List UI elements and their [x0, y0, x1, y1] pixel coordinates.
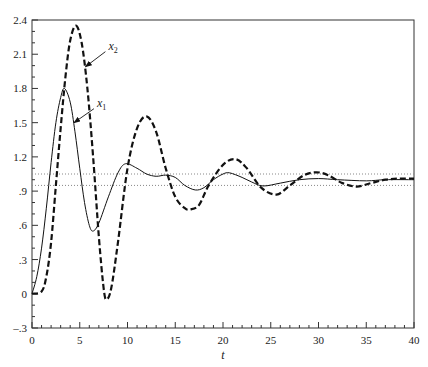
x-tick-label: 5 — [77, 334, 83, 346]
y-tick-label: 2.4 — [13, 14, 27, 26]
series-x2-line — [32, 26, 414, 300]
y-tick-label: 0 — [22, 288, 28, 300]
x-axis-ticks: 0510152025303540 — [29, 322, 420, 346]
series-group — [32, 26, 414, 300]
y-tick-label: 2.1 — [13, 48, 27, 60]
y-tick-label: .3 — [19, 254, 28, 266]
annotation-arrow-x2 — [85, 52, 105, 67]
y-tick-label: 1.2 — [13, 151, 27, 163]
annotations: x2x1 — [74, 39, 118, 123]
x-tick-label: 35 — [361, 334, 373, 346]
x-tick-label: 20 — [218, 334, 230, 346]
y-tick-label: –.3 — [12, 322, 27, 334]
x-tick-label: 40 — [409, 334, 421, 346]
line-chart: 0510152025303540 –.30.3.6.91.21.51.82.12… — [0, 0, 428, 367]
y-tick-label: .6 — [19, 219, 28, 231]
y-tick-label: .9 — [19, 185, 28, 197]
x-tick-label: 25 — [265, 334, 277, 346]
annotation-label-x2: x2 — [107, 39, 117, 55]
x-tick-label: 0 — [29, 334, 35, 346]
y-tick-label: 1.5 — [13, 117, 27, 129]
reference-lines — [32, 174, 414, 185]
x-tick-label: 15 — [170, 334, 182, 346]
y-tick-label: 1.8 — [13, 82, 27, 94]
x-tick-label: 10 — [122, 334, 134, 346]
annotation-label-x1: x1 — [96, 96, 106, 112]
x-tick-label: 30 — [313, 334, 325, 346]
x-axis-title: t — [221, 348, 225, 362]
